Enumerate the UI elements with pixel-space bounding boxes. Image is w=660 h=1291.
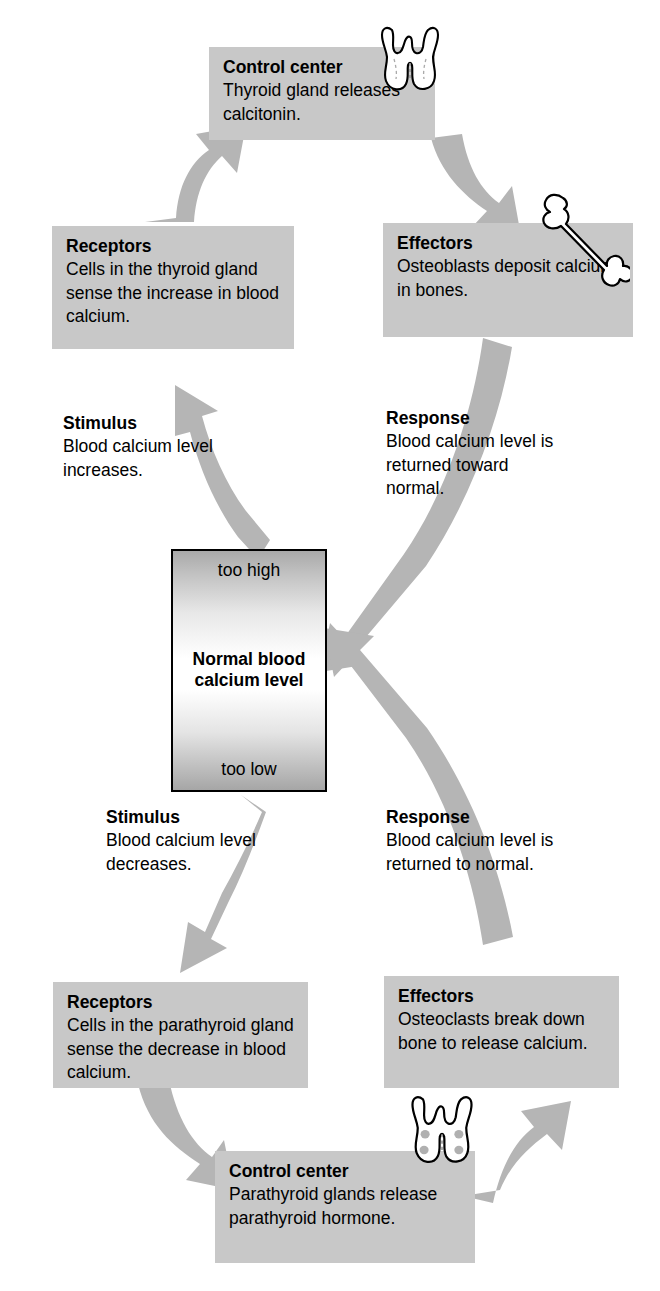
response-upper-title: Response [386, 407, 566, 430]
center-main-label: Normal bloodcalcium level [193, 649, 306, 692]
bone-icon [530, 190, 630, 298]
arrow-effectors-to-center-upper [320, 338, 512, 672]
center-too-high-label: too high [218, 560, 280, 581]
label-response-upper: Response Blood calcium level is returned… [386, 407, 566, 500]
receptors-lower-body: Cells in the parathyroid gland sense the… [67, 1014, 296, 1084]
feedback-loop-diagram: Control center Thyroid gland releases ca… [0, 0, 660, 1291]
label-stimulus-upper: Stimulus Blood calcium level increases. [63, 412, 243, 482]
center-main-line1: Normal blood [193, 649, 306, 669]
stimulus-upper-body: Blood calcium level increases. [63, 435, 243, 482]
center-main-line2: calcium level [195, 670, 304, 690]
stimulus-upper-title: Stimulus [63, 412, 243, 435]
stimulus-lower-body: Blood calcium level decreases. [106, 829, 291, 876]
effectors-lower-title: Effectors [398, 985, 607, 1008]
receptors-lower-title: Receptors [67, 991, 296, 1014]
center-normal-level-box: too high Normal bloodcalcium level too l… [171, 549, 327, 792]
control-center-lower-body: Parathyroid glands release parathyroid h… [229, 1183, 463, 1230]
response-lower-title: Response [386, 806, 566, 829]
response-lower-body: Blood calcium level is returned to norma… [386, 829, 566, 876]
response-upper-body: Blood calcium level is returned toward n… [386, 430, 566, 500]
box-receptors-upper: Receptors Cells in the thyroid gland sen… [52, 226, 294, 349]
label-stimulus-lower: Stimulus Blood calcium level decreases. [106, 806, 291, 876]
thyroid-gland-icon [374, 23, 446, 97]
label-response-lower: Response Blood calcium level is returned… [386, 806, 566, 876]
arrow-control-center-to-effectors-upper [431, 134, 521, 236]
box-effectors-lower: Effectors Osteoclasts break down bone to… [384, 976, 619, 1088]
box-receptors-lower: Receptors Cells in the parathyroid gland… [53, 982, 308, 1088]
arrow-effectors-to-center-lower [324, 628, 513, 945]
center-too-low-label: too low [221, 759, 276, 780]
receptors-upper-body: Cells in the thyroid gland sense the inc… [66, 258, 282, 328]
stimulus-lower-title: Stimulus [106, 806, 291, 829]
effectors-lower-body: Osteoclasts break down bone to release c… [398, 1008, 607, 1055]
receptors-upper-title: Receptors [66, 235, 282, 258]
parathyroid-gland-icon [404, 1092, 480, 1170]
